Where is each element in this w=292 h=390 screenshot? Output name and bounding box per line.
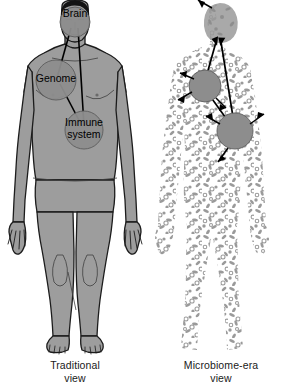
hand-left [9,222,26,254]
microbe-body-silhouette [150,0,292,358]
hand-right [124,222,141,254]
caption-line-2: view [150,372,292,385]
figure-root: Brain Genome Immune system Traditional v… [0,0,292,390]
foot-right [81,336,104,353]
upper-hub-circle [189,70,221,102]
finger-lines [8,230,142,249]
brain-node [60,7,90,37]
genome-node [36,60,76,100]
arm-left [13,66,34,222]
lower-hub-circle [217,113,253,149]
traditional-body-diagram [0,0,150,358]
caption-line-1: Traditional [0,359,150,372]
human-body-figure [8,0,142,354]
immune-node [65,111,103,149]
panel-traditional-view: Brain Genome Immune system Traditional v… [0,0,150,390]
leg-right [76,212,113,336]
head-microbe-mass [204,3,238,43]
caption-traditional-view: Traditional view [0,359,150,384]
caption-line-2: view [0,372,150,385]
arm-right [116,66,137,222]
foot-left [47,336,70,353]
caption-line-1: Microbiome-era [150,359,292,372]
caption-microbiome-era-view: Microbiome-era view [150,359,292,384]
hips [35,180,115,212]
microbiome-body-diagram [150,0,292,358]
panel-microbiome-era-view: Microbiome-era view [150,0,292,390]
